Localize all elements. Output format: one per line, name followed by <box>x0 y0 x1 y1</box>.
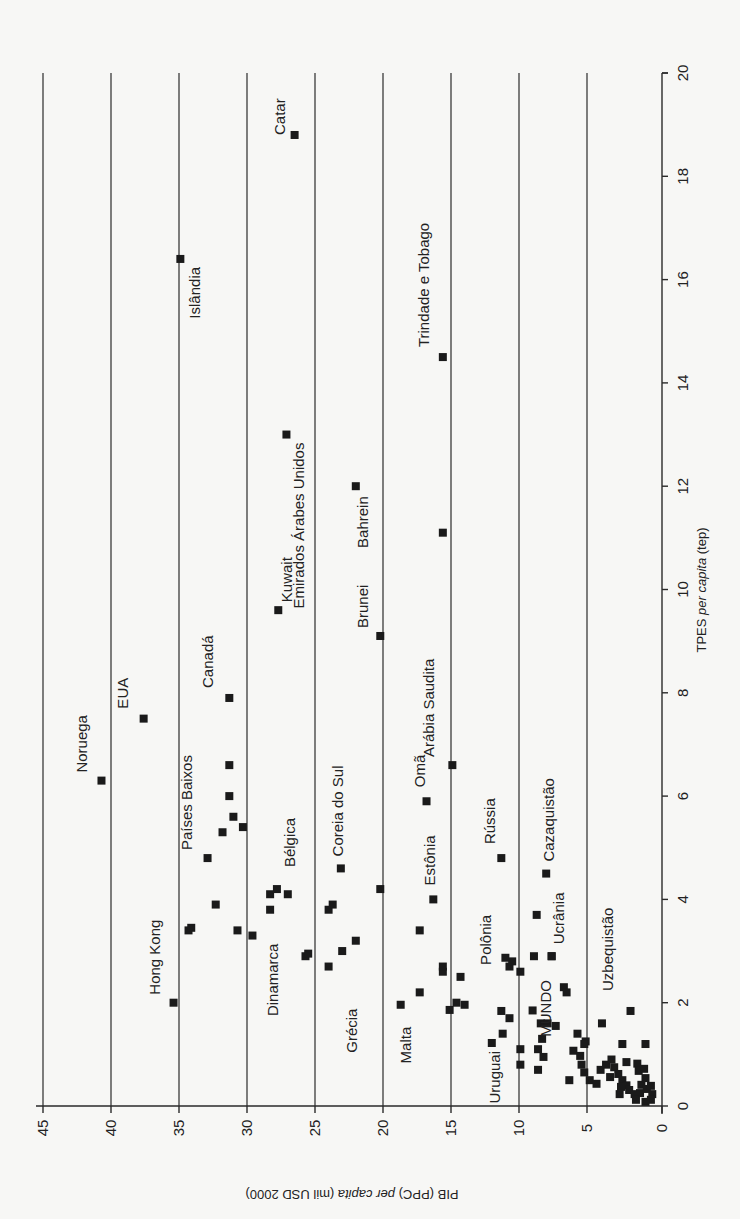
data-point <box>329 901 337 909</box>
data-point <box>239 823 247 831</box>
data-point <box>641 1040 649 1048</box>
data-point <box>563 988 571 996</box>
tpes-tick-label: 4 <box>674 895 691 903</box>
data-point <box>617 1083 625 1091</box>
data-point <box>304 950 312 958</box>
data-point <box>641 1098 649 1106</box>
data-point <box>576 1052 584 1060</box>
data-point <box>627 1007 635 1015</box>
data-point <box>282 431 290 439</box>
gdp-tick-label: 20 <box>374 1120 391 1137</box>
point-label: Brunei <box>354 585 371 628</box>
data-point <box>516 1061 524 1069</box>
data-point <box>516 968 524 976</box>
data-point <box>488 1039 496 1047</box>
point-label: Trindade e Tobago <box>415 223 432 347</box>
point-label: Grécia <box>343 1008 360 1053</box>
data-point <box>416 988 424 996</box>
data-point <box>529 1006 537 1014</box>
data-point <box>533 911 541 919</box>
data-point <box>176 255 184 263</box>
gdp-tick-label: 35 <box>170 1120 187 1137</box>
point-label: Dinamarca <box>264 943 281 1016</box>
data-point <box>578 1061 586 1069</box>
data-point <box>448 761 456 769</box>
gdp-tick-label: 15 <box>442 1120 459 1137</box>
data-point <box>291 131 299 139</box>
data-point <box>233 926 241 934</box>
point-label: Cazaquistão <box>540 778 557 861</box>
point-label: Ucrânia <box>550 892 567 944</box>
data-point <box>140 715 148 723</box>
point-label: Islândia <box>186 266 203 318</box>
data-point <box>461 1001 469 1009</box>
point-label: Noruega <box>73 714 90 772</box>
data-point <box>497 854 505 862</box>
point-label: Polônia <box>477 914 494 965</box>
data-point <box>266 906 274 914</box>
data-point <box>542 870 550 878</box>
data-point <box>337 864 345 872</box>
point-label: Estônia <box>421 835 438 886</box>
tpes-tick-label: 8 <box>674 689 691 697</box>
point-label: Arábia Saudita <box>420 658 437 757</box>
data-point <box>497 1007 505 1015</box>
gdp-axis-ticks: 051015202530354045 <box>34 1106 670 1136</box>
data-point <box>376 885 384 893</box>
data-point <box>530 952 538 960</box>
tpes-tick-label: 20 <box>674 65 691 82</box>
data-point <box>598 1019 606 1027</box>
data-point <box>284 890 292 898</box>
data-point <box>248 932 256 940</box>
data-point <box>606 1073 614 1081</box>
tpes-tick-label: 16 <box>674 271 691 288</box>
data-point <box>266 890 274 898</box>
data-points <box>97 131 656 1106</box>
point-label: Malta <box>397 1026 414 1063</box>
data-point <box>580 1068 588 1076</box>
data-point <box>225 694 233 702</box>
data-point <box>187 924 195 932</box>
gdp-tick-label: 45 <box>34 1120 51 1137</box>
tpes-axis-title: TPES per capita (tep) <box>694 527 709 652</box>
data-point <box>225 761 233 769</box>
data-point <box>439 529 447 537</box>
data-point <box>632 1096 640 1104</box>
point-label: Uruguai <box>486 1051 503 1104</box>
data-point <box>352 937 360 945</box>
data-point <box>647 1082 655 1090</box>
point-label: Emirados Árabes Unidos <box>290 443 307 609</box>
tpes-tick-label: 12 <box>674 478 691 495</box>
data-point <box>416 926 424 934</box>
data-point <box>204 854 212 862</box>
data-point <box>640 1065 648 1073</box>
data-point <box>565 1076 573 1084</box>
tpes-tick-label: 10 <box>674 581 691 598</box>
point-label: Coreia do Sul <box>329 766 346 857</box>
gdp-tick-label: 5 <box>578 1124 595 1132</box>
data-point <box>622 1058 630 1066</box>
gdp-tick-label: 30 <box>238 1120 255 1137</box>
point-label: Uzbequistão <box>599 908 616 991</box>
gdp-tick-label: 0 <box>653 1124 670 1132</box>
data-point <box>219 828 227 836</box>
gdp-tick-label: 40 <box>102 1120 119 1137</box>
tpes-tick-label: 6 <box>674 792 691 800</box>
data-point <box>539 1053 547 1061</box>
data-point <box>607 1056 615 1064</box>
gridlines <box>43 73 587 1106</box>
gdp-tick-label: 10 <box>510 1120 527 1137</box>
data-point <box>548 952 556 960</box>
data-point <box>618 1040 626 1048</box>
tpes-tick-label: 14 <box>674 375 691 392</box>
scatter-chart: 02468101214161820 051015202530354045 Nor… <box>0 0 740 1219</box>
data-point <box>586 1076 594 1084</box>
axes <box>36 73 668 1114</box>
data-point <box>97 777 105 785</box>
point-label: EUA <box>114 678 131 709</box>
data-point <box>499 1030 507 1038</box>
data-point <box>273 885 281 893</box>
point-label: Catar <box>271 98 288 135</box>
data-point <box>505 1014 513 1022</box>
data-point <box>457 973 465 981</box>
